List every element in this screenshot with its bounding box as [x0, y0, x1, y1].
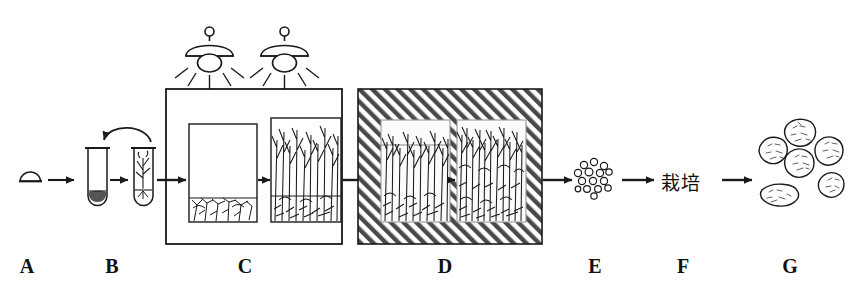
- culture-vessel-d2: [457, 120, 526, 222]
- grow-lamp-left-icon: [175, 27, 244, 89]
- test-tube-with-plantlet: [131, 148, 156, 205]
- stage-label-c: C: [225, 256, 265, 276]
- stage-label-d: D: [425, 256, 465, 276]
- stage-label-g: G: [770, 256, 810, 276]
- microtuber-cluster-icon: [574, 158, 612, 199]
- figure-caption: [0, 292, 853, 304]
- figure-canvas: 栽培 A B C D E F G: [0, 0, 853, 304]
- grow-lamp-right-icon: [250, 27, 319, 89]
- culture-vessel-c1: [189, 124, 257, 222]
- seed-explant-icon: [19, 172, 42, 181]
- test-tube-empty: [85, 148, 110, 206]
- culture-vessel-c2: [271, 118, 341, 222]
- stage-label-f: F: [663, 256, 703, 276]
- harvested-tubers-icon: [759, 119, 844, 206]
- cultivation-step-text: 栽培: [661, 168, 701, 195]
- culture-vessel-d1: [381, 120, 450, 222]
- transfer-curved-arrow: [104, 128, 151, 142]
- stage-label-e: E: [575, 256, 615, 276]
- stage-label-a: A: [7, 256, 47, 276]
- stage-label-b: B: [92, 256, 132, 276]
